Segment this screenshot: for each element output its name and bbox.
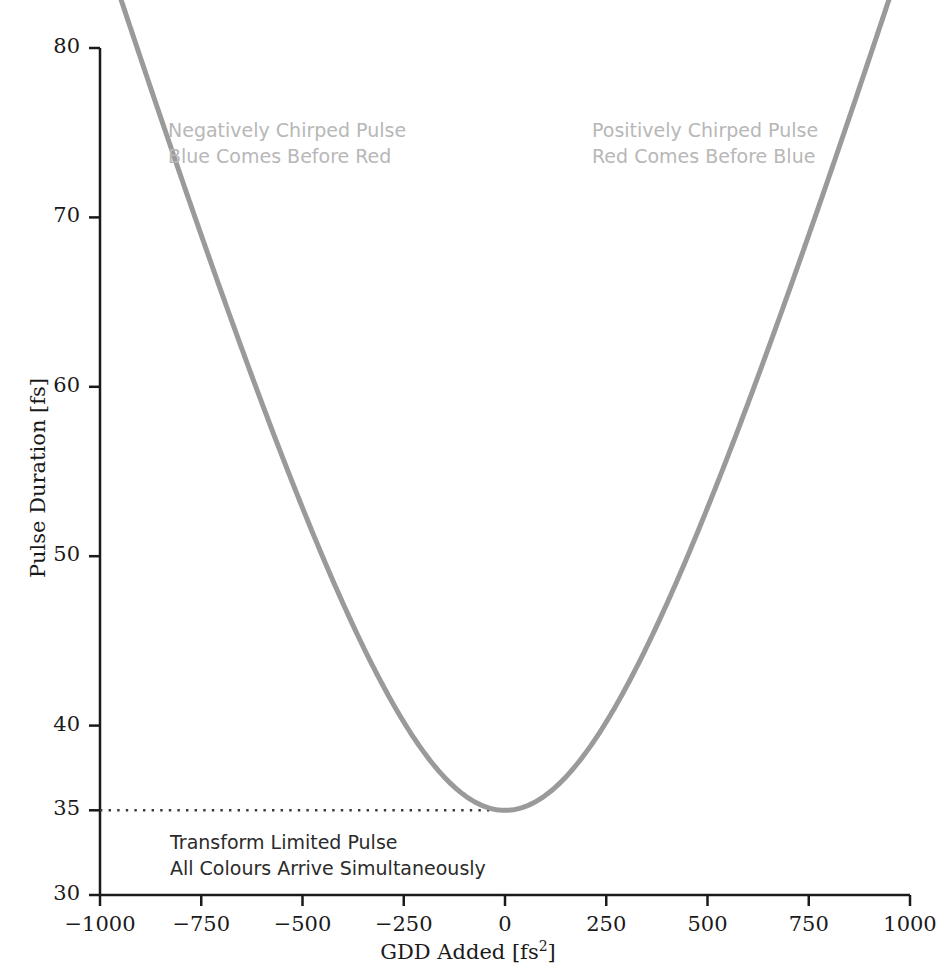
annotation-transform-limited: Transform Limited Pulse All Colours Arri… [170,830,486,881]
annotation-transform-line-2: All Colours Arrive Simultaneously [170,856,486,882]
y-axis-title: Pulse Duration [fs] [26,358,50,598]
axes-group [100,48,910,895]
y-tick-label: 30 [18,881,80,905]
x-axis-title-base: GDD Added [fs [380,940,538,964]
x-axis-title-tail: ] [548,940,556,964]
y-tick-label: 40 [18,712,80,736]
chart-figure: 30354050607080 −1000−750−500−25002505007… [0,0,936,971]
y-tick-marks [89,48,100,895]
annotation-negative-chirp: Negatively Chirped Pulse Blue Comes Befo… [168,118,406,169]
x-tick-marks [100,895,910,906]
x-axis-title: GDD Added [fs2] [0,938,936,964]
x-tick-label: 1000 [850,912,936,936]
annotation-negative-line-2: Blue Comes Before Red [168,144,406,170]
annotation-negative-line-1: Negatively Chirped Pulse [168,118,406,144]
y-tick-label: 70 [18,203,80,227]
annotation-positive-line-2: Red Comes Before Blue [592,144,818,170]
y-tick-label: 35 [18,796,80,820]
annotation-positive-chirp: Positively Chirped Pulse Red Comes Befor… [592,118,818,169]
y-tick-label: 80 [18,34,80,58]
annotation-transform-line-1: Transform Limited Pulse [170,830,486,856]
annotation-positive-line-1: Positively Chirped Pulse [592,118,818,144]
x-axis-title-superscript: 2 [539,938,548,954]
